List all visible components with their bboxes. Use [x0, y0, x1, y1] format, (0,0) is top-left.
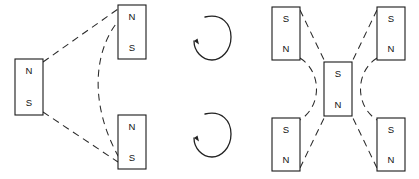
bottom-right-dashed-line [351, 114, 377, 168]
upper-right-magnet-north-label: N [129, 11, 136, 22]
right-inner-dashed-arc [361, 58, 378, 120]
center-magnet-north-label: N [335, 99, 342, 110]
bottom-left-magnet-north-label: N [283, 154, 290, 165]
magnet-diagram-figure: N S N S N S [0, 0, 419, 179]
center-magnet-south-label: S [335, 68, 341, 79]
upper-right-magnet-south-label: S [129, 42, 135, 53]
bottom-left-magnet-south-label: S [283, 124, 289, 135]
bottom-right-magnet-south-label: S [388, 124, 394, 135]
lower-rotation-arrow [194, 113, 231, 157]
bottom-right-magnet-north-label: N [388, 154, 395, 165]
left-magnet-north-label: N [26, 65, 33, 76]
lower-dashed-line [43, 112, 118, 162]
bottom-left-dashed-line [300, 114, 326, 168]
lower-right-magnet-south-label: S [129, 152, 135, 163]
left-magnet-group: N S N S N S [15, 5, 146, 169]
left-magnet-south-label: S [26, 97, 32, 108]
lower-rotation-arc [194, 113, 231, 157]
lower-right-magnet: N S [118, 115, 146, 169]
top-right-magnet-north-label: N [388, 43, 395, 54]
top-right-magnet: S N [377, 7, 405, 60]
top-left-dashed-line [300, 10, 326, 64]
bottom-right-magnet: S N [377, 118, 405, 171]
left-inner-dashed-arc [300, 58, 317, 120]
rotation-arrow-group [194, 16, 231, 157]
left-magnet: N S [15, 59, 43, 115]
center-magnet: S N [324, 62, 352, 116]
top-right-dashed-line [351, 10, 377, 64]
top-left-magnet-north-label: N [283, 43, 290, 54]
bottom-left-magnet: S N [272, 118, 300, 171]
top-right-magnet-south-label: S [388, 13, 394, 24]
top-left-magnet: S N [272, 7, 300, 60]
upper-rotation-arc [194, 16, 231, 60]
upper-right-magnet: N S [118, 5, 146, 59]
upper-dashed-line [43, 9, 118, 62]
lower-right-magnet-north-label: N [129, 121, 136, 132]
upper-rotation-arrow [194, 16, 231, 60]
right-magnet-group: S N S N S N S N [272, 7, 405, 171]
diagram-canvas: N S N S N S [0, 0, 419, 179]
top-left-magnet-south-label: S [283, 13, 289, 24]
